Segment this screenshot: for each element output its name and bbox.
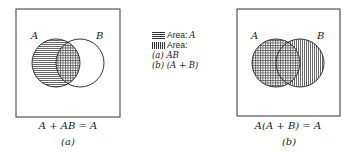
- circle-b-label: B: [317, 30, 324, 41]
- panel-b: [237, 9, 340, 116]
- legend-item-b: (b) (A + B): [152, 60, 198, 70]
- circle-a-label: A: [251, 30, 258, 41]
- equation-b: A(A + B) = A: [246, 120, 330, 131]
- legend: Area: A Area: (a) AB (b) (A + B): [152, 30, 198, 70]
- equation-a: A + AB = A: [32, 120, 104, 131]
- vertical-hatch-swatch: [152, 42, 165, 49]
- caption-a: (a): [58, 136, 78, 147]
- circle-b-label: B: [96, 30, 103, 41]
- horizontal-hatch-swatch: [152, 32, 165, 39]
- legend-horizontal: Area: A: [152, 30, 198, 40]
- legend-vertical: Area:: [152, 40, 198, 50]
- panel-a: [16, 9, 120, 117]
- legend-item-a: (a) AB: [152, 50, 198, 60]
- circle-a-label: A: [31, 30, 38, 41]
- caption-b: (b): [279, 136, 299, 147]
